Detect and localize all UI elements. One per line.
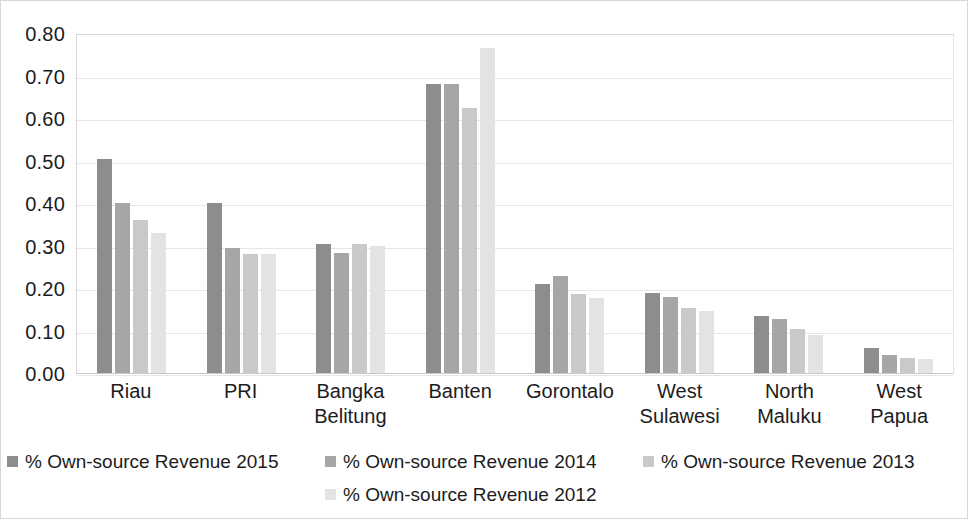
y-tick-label: 0.40: [25, 193, 65, 216]
bar[interactable]: [207, 203, 222, 373]
legend-label: % Own-source Revenue 2013: [661, 451, 914, 473]
x-tick-label: Banten: [405, 377, 515, 439]
legend-swatch-icon: [7, 456, 18, 467]
x-axis: RiauPRIBangkaBelitungBantenGorontaloWest…: [76, 377, 954, 439]
y-tick-label: 0.50: [25, 150, 65, 173]
x-tick-label-line: North: [735, 379, 845, 404]
bar[interactable]: [864, 348, 879, 373]
legend-item[interactable]: % Own-source Revenue 2013: [643, 445, 961, 478]
x-tick-label-line: Maluku: [735, 404, 845, 429]
x-tick-label: BangkaBelitung: [296, 377, 406, 439]
x-tick-label-line: Papua: [844, 404, 954, 429]
legend-swatch-icon: [325, 489, 336, 500]
bar[interactable]: [882, 355, 897, 373]
legend-item[interactable]: % Own-source Revenue 2015: [7, 445, 325, 478]
y-tick-label: 0.10: [25, 320, 65, 343]
y-tick-label: 0.60: [25, 108, 65, 131]
x-tick-label: WestPapua: [844, 377, 954, 439]
bar[interactable]: [645, 293, 660, 373]
legend-swatch-icon: [643, 456, 654, 467]
bar-group: [844, 35, 954, 373]
x-tick-label-line: Riau: [76, 379, 186, 404]
bar[interactable]: [115, 203, 130, 373]
x-tick-label-line: PRI: [186, 379, 296, 404]
bar[interactable]: [261, 254, 276, 373]
plot-area: [76, 34, 954, 374]
y-tick-label: 0.20: [25, 278, 65, 301]
x-tick-label-line: Bangka: [296, 379, 406, 404]
x-tick-label-line: Sulawesi: [625, 404, 735, 429]
x-tick-label-line: Gorontalo: [515, 379, 625, 404]
y-tick-label: 0.70: [25, 65, 65, 88]
x-tick-label: Riau: [76, 377, 186, 439]
bar[interactable]: [462, 108, 477, 373]
bar-group: [625, 35, 735, 373]
x-tick-label-line: West: [625, 379, 735, 404]
bar-chart: 0.800.700.600.500.400.300.200.100.00 Ria…: [0, 0, 968, 519]
x-tick-label: Gorontalo: [515, 377, 625, 439]
bar[interactable]: [772, 319, 787, 373]
x-tick-label: NorthMaluku: [735, 377, 845, 439]
y-tick-label: 0.00: [25, 363, 65, 386]
bar[interactable]: [133, 220, 148, 373]
y-tick-label: 0.80: [25, 23, 65, 46]
bar[interactable]: [535, 284, 550, 373]
bar[interactable]: [571, 294, 586, 373]
bar[interactable]: [352, 244, 367, 373]
bar-group: [187, 35, 297, 373]
y-axis: 0.800.700.600.500.400.300.200.100.00: [1, 1, 73, 519]
x-tick-label-line: Banten: [405, 379, 515, 404]
bar[interactable]: [480, 48, 495, 373]
bar[interactable]: [426, 84, 441, 373]
bar[interactable]: [151, 233, 166, 373]
bar[interactable]: [699, 311, 714, 373]
legend-label: % Own-source Revenue 2012: [343, 484, 596, 506]
bar[interactable]: [589, 298, 604, 373]
x-tick-label-line: Belitung: [296, 404, 406, 429]
legend-item[interactable]: % Own-source Revenue 2014: [325, 445, 643, 478]
x-tick-label: PRI: [186, 377, 296, 439]
bar-group: [734, 35, 844, 373]
bar[interactable]: [663, 297, 678, 373]
bar-group: [406, 35, 516, 373]
bar[interactable]: [97, 159, 112, 373]
legend-label: % Own-source Revenue 2014: [343, 451, 596, 473]
bar[interactable]: [900, 358, 915, 373]
bar[interactable]: [808, 335, 823, 373]
bar[interactable]: [553, 276, 568, 373]
bar[interactable]: [444, 84, 459, 373]
bar[interactable]: [316, 244, 331, 373]
bar[interactable]: [334, 253, 349, 373]
bar[interactable]: [225, 248, 240, 373]
bar-group: [296, 35, 406, 373]
bar[interactable]: [370, 246, 385, 374]
chart-legend: % Own-source Revenue 2015% Own-source Re…: [1, 445, 967, 511]
x-tick-label-line: West: [844, 379, 954, 404]
legend-item[interactable]: % Own-source Revenue 2012: [325, 478, 643, 511]
bar[interactable]: [754, 316, 769, 373]
bar[interactable]: [243, 254, 258, 373]
bar[interactable]: [918, 359, 933, 373]
bars-layer: [77, 35, 953, 373]
bar-group: [77, 35, 187, 373]
x-tick-label: WestSulawesi: [625, 377, 735, 439]
legend-label: % Own-source Revenue 2015: [25, 451, 278, 473]
y-tick-label: 0.30: [25, 235, 65, 258]
bar[interactable]: [790, 329, 805, 373]
bar[interactable]: [681, 308, 696, 373]
legend-swatch-icon: [325, 456, 336, 467]
bar-group: [515, 35, 625, 373]
gridline: [77, 375, 953, 376]
